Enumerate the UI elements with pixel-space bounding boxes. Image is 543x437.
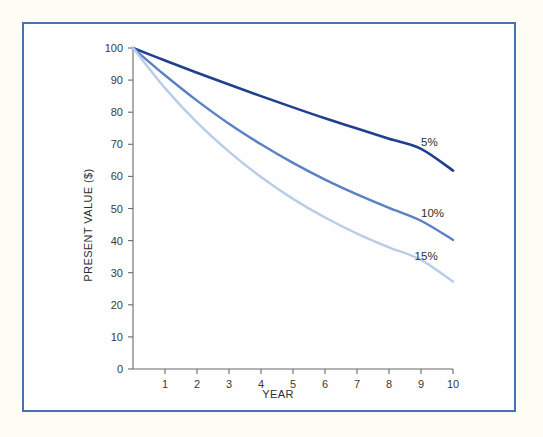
y-tick-label: 60 [111, 170, 123, 182]
series-label-10pct: 10% [421, 207, 444, 219]
y-tick-label: 50 [111, 203, 123, 215]
data-series-curves [133, 48, 453, 282]
x-tick-label: 3 [226, 378, 232, 390]
y-tick-label: 40 [111, 235, 123, 247]
x-tick-label: 6 [322, 378, 328, 390]
axes [128, 48, 453, 374]
y-axis-tick-labels: 0102030405060708090100 [105, 42, 123, 375]
series-curve-5pct [133, 48, 453, 171]
x-axis-tick-labels: 12345678910 [162, 378, 459, 390]
y-tick-label: 80 [111, 106, 123, 118]
series-label-5pct: 5% [421, 136, 438, 148]
figure-container: 0102030405060708090100 12345678910 PRESE… [0, 0, 543, 437]
x-tick-label: 2 [194, 378, 200, 390]
x-axis-tick-marks [165, 369, 453, 374]
x-tick-label: 1 [162, 378, 168, 390]
y-tick-label: 70 [111, 138, 123, 150]
series-label-15pct: 15% [415, 250, 438, 262]
y-tick-label: 10 [111, 331, 123, 343]
y-axis-tick-marks [128, 48, 133, 369]
x-tick-label: 9 [418, 378, 424, 390]
x-tick-label: 8 [386, 378, 392, 390]
y-tick-label: 90 [111, 74, 123, 86]
y-tick-label: 0 [117, 363, 123, 375]
y-tick-label: 20 [111, 299, 123, 311]
present-value-line-chart: 0102030405060708090100 12345678910 PRESE… [0, 0, 543, 437]
x-tick-label: 7 [354, 378, 360, 390]
y-tick-label: 30 [111, 267, 123, 279]
x-axis-title: YEAR [262, 388, 294, 400]
y-tick-label: 100 [105, 42, 123, 54]
x-tick-label: 10 [447, 378, 459, 390]
y-axis-title: PRESENT VALUE ($) [82, 168, 94, 281]
series-curve-15pct [133, 48, 453, 282]
